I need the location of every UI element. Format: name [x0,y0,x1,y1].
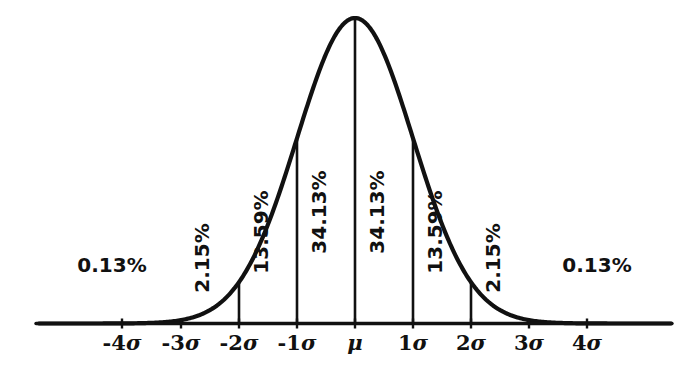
tick-label-neg2sigma: -2σ [220,330,259,355]
sigma-band-separators [181,19,529,324]
band-label-band-neg2-neg1: 13.59% [249,190,273,273]
axis-tick-labels: -4σ-3σ-2σ-1σμ1σ2σ3σ4σ [103,330,603,355]
tick-label-mu: μ [347,330,362,355]
normal-distribution-figure: 2.15%13.59%34.13%34.13%13.59%2.15% 0.13%… [0,0,699,366]
tail-label-tail-left: 0.13% [77,253,146,277]
tick-label-neg4sigma: -4σ [103,330,142,355]
tick-label-neg3sigma: -3σ [162,330,201,355]
tick-label-pos3sigma: 3σ [514,330,545,355]
band-percentage-labels: 2.15%13.59%34.13%34.13%13.59%2.15% [190,170,505,292]
band-label-band-neg3-neg2: 2.15% [190,223,214,292]
tick-label-pos1sigma: 1σ [398,330,429,355]
tail-label-tail-right: 0.13% [562,253,631,277]
tick-label-neg1sigma: -1σ [278,330,317,355]
band-label-band-pos1-pos2: 13.59% [423,190,447,273]
bell-curve-chart: 2.15%13.59%34.13%34.13%13.59%2.15% 0.13%… [0,0,699,366]
band-label-band-neg1-mu: 34.13% [307,170,331,253]
tick-label-pos4sigma: 4σ [572,330,603,355]
band-label-band-pos2-pos3: 2.15% [481,223,505,292]
tick-label-pos2sigma: 2σ [456,330,487,355]
band-label-band-mu-pos1: 34.13% [365,170,389,253]
